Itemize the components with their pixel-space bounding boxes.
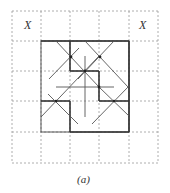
figure-caption: (a): [77, 173, 90, 185]
corner-label-left: X: [24, 18, 31, 33]
corner-label-right: X: [139, 18, 146, 33]
axis-lines: [56, 56, 114, 117]
